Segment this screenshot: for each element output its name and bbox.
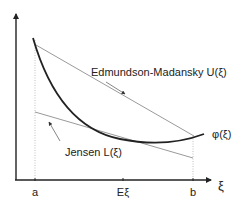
tick-label-expectation: Eξ xyxy=(117,186,129,198)
tick-label-a: a xyxy=(32,186,39,198)
bounds-diagram: Edmundson-Madansky U(ξ) Jensen L(ξ) φ(ξ)… xyxy=(0,0,243,207)
phi-label: φ(ξ) xyxy=(212,128,231,140)
tick-label-b: b xyxy=(190,186,196,198)
lower-label-arrow xyxy=(49,122,60,141)
lower-bound-label: Jensen L(ξ) xyxy=(65,146,122,158)
upper-bound-label: Edmundson-Madansky U(ξ) xyxy=(91,66,227,78)
upper-bound-line xyxy=(36,45,194,136)
x-axis-label: ξ xyxy=(218,178,224,193)
upper-label-arrow xyxy=(106,82,125,94)
